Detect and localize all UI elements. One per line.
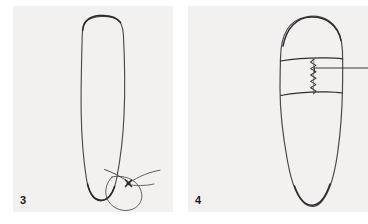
collar-band-upper-line bbox=[280, 58, 342, 61]
panel-3-illustration bbox=[13, 6, 173, 212]
leader-line bbox=[314, 68, 368, 72]
panel-3-label: 3 bbox=[20, 195, 26, 206]
zigzag-seam bbox=[311, 59, 316, 94]
figure-panel-4: 4 bbox=[188, 6, 368, 212]
suture-knot bbox=[126, 180, 132, 187]
panel-4-label: 4 bbox=[195, 195, 201, 206]
panel-4-illustration bbox=[188, 6, 368, 212]
tooth-outline bbox=[280, 16, 343, 206]
collar-band bbox=[280, 58, 342, 96]
collar-band-lower-line bbox=[281, 92, 343, 96]
figure-page: 3 bbox=[0, 0, 368, 224]
figure-panel-3: 3 bbox=[13, 6, 173, 212]
tooth-outline bbox=[81, 15, 125, 200]
